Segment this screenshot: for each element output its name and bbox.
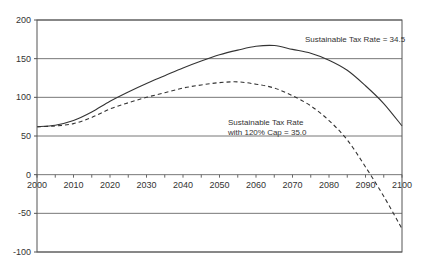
y-tick-label: 100 xyxy=(16,92,31,102)
x-tick-label: 2070 xyxy=(282,180,302,190)
x-tick-label: 2030 xyxy=(136,180,156,190)
annotation-dashed-line2: with 120% Cap = 35.0 xyxy=(227,128,307,137)
y-axis: 200150100500-50-100 xyxy=(13,15,37,257)
line-chart: 200150100500-50-100 20002010202020302040… xyxy=(0,0,426,269)
y-tick-label: 150 xyxy=(16,54,31,64)
x-tick-label: 2040 xyxy=(173,180,193,190)
x-axis: 2000201020202030204020502060207020802090… xyxy=(27,175,412,190)
series-line-capped xyxy=(37,82,402,229)
x-tick-label: 2010 xyxy=(63,180,83,190)
y-tick-label: -50 xyxy=(18,208,31,218)
y-tick-label: 200 xyxy=(16,15,31,25)
x-tick-label: 2080 xyxy=(319,180,339,190)
annotation-solid: Sustainable Tax Rate = 34.5 xyxy=(305,35,406,44)
annotation-dashed-line1: Sustainable Tax Rate xyxy=(228,118,304,127)
y-tick-label: -100 xyxy=(13,247,31,257)
x-tick-label: 2050 xyxy=(209,180,229,190)
x-tick-label: 2090 xyxy=(355,180,375,190)
y-tick-label: 50 xyxy=(21,131,31,141)
series-line-sustainable xyxy=(37,45,402,126)
x-tick-label: 2020 xyxy=(100,180,120,190)
x-tick-label: 2060 xyxy=(246,180,266,190)
y-tick-label: 0 xyxy=(26,170,31,180)
series-lines xyxy=(37,45,402,228)
